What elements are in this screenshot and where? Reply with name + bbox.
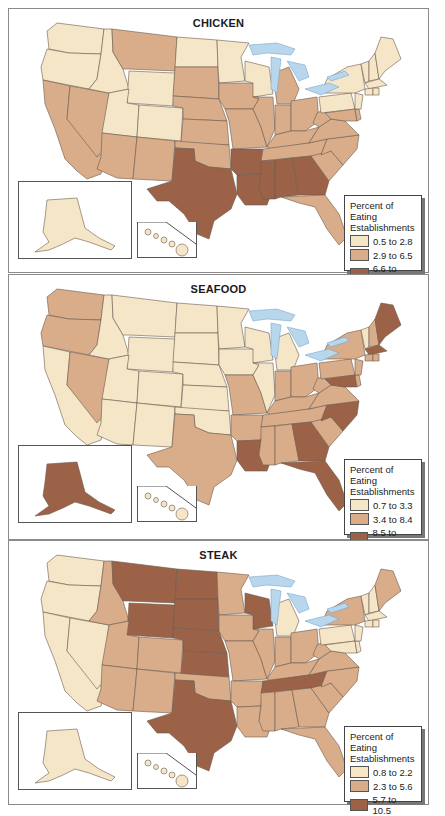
state-mt [112,295,177,337]
state-hi [154,498,159,503]
legend-label: 0.8 to 2.2 [373,767,413,778]
state-mt [112,29,177,71]
state-sd [173,333,219,365]
state-nm [133,137,175,181]
hawaii-inset [137,222,197,258]
swatch-low [350,235,369,247]
state-nm [133,403,175,447]
legend-label: 0.5 to 2.8 [373,236,413,247]
swatch-mid [350,249,369,261]
state-hi [145,760,151,766]
legend: Percent of Eating Establishments 0.8 to … [344,726,422,802]
state-hi [154,234,159,239]
state-ks [181,651,229,677]
legend-item-mid: 3.4 to 8.4 [350,513,416,525]
state-nd [175,37,218,67]
legend-item-low: 0.7 to 3.3 [350,499,416,511]
legend-title-2: Establishments [350,486,416,497]
state-hi [161,237,167,243]
state-ms [259,692,275,731]
state-nj [355,625,363,641]
state-nd [175,569,218,599]
state-ar [231,149,263,175]
state-az [97,665,137,711]
state-hi [154,765,159,770]
panel-title: STEAK [9,549,428,561]
state-wy [127,71,175,106]
legend-title: Percent of Eating [350,200,416,222]
legend: Percent of Eating Establishments 0.5 to … [344,195,422,271]
swatch-mid [350,513,369,525]
great-lake [249,43,295,55]
map-panel-seafood: SEAFOOD Percent of Eating Establishments… [8,274,429,540]
legend-label: 2.9 to 6.5 [373,250,413,261]
legend-item-mid: 2.3 to 5.6 [350,780,416,792]
state-me [375,37,401,79]
hawaii-inset [137,753,197,789]
state-oh [291,97,319,131]
state-hi [169,772,175,778]
state-ri [373,354,379,361]
state-in [275,371,291,401]
great-lake [249,575,295,587]
great-lake [249,309,295,321]
legend-item-low: 0.5 to 2.8 [350,235,416,247]
legend-title: Percent of Eating [350,731,416,753]
state-in [275,637,291,667]
panel-title: SEAFOOD [9,283,428,295]
state-ak [35,729,115,783]
state-hi [176,775,188,787]
legend-title-2: Establishments [350,222,416,233]
legend-title-2: Establishments [350,753,416,764]
legend-item-high: 5.7 to 10.5 [350,794,416,816]
state-mn [217,40,249,83]
state-ak [35,198,115,252]
legend-label: 0.7 to 3.3 [373,500,413,511]
swatch-low [350,766,369,778]
state-hi [161,501,167,507]
map-panel-chicken: CHICKEN Percent of Eating Establishments… [8,8,429,273]
legend-title: Percent of Eating [350,464,416,486]
alaska-inset [18,181,132,259]
state-fl [281,727,347,777]
legend-label: 2.3 to 5.6 [373,781,413,792]
state-mn [217,572,249,615]
hawaii-inset [137,486,197,522]
legend-label: 5.7 to 10.5 [372,794,416,816]
map-panel-steak: STEAK Percent of Eating Establishments 0… [8,540,429,805]
panel-title: CHICKEN [9,17,428,29]
state-sd [173,67,219,99]
swatch-low [350,499,369,511]
state-hi [145,493,151,499]
state-me [375,569,401,611]
state-ks [181,119,229,145]
legend: Percent of Eating Establishments 0.7 to … [344,459,422,535]
state-co [137,637,183,673]
state-ks [181,385,229,411]
alaska-inset [18,445,132,523]
state-az [97,399,137,445]
state-ct [365,354,373,361]
state-nm [133,669,175,713]
state-oh [291,363,319,397]
swatch-high [350,799,368,811]
state-fl [281,461,347,511]
state-fl [281,195,347,245]
state-mt [112,561,177,603]
state-nj [355,359,363,375]
legend-item-low: 0.8 to 2.2 [350,766,416,778]
state-nd [175,303,218,333]
state-ri [373,88,379,95]
state-wy [127,337,175,372]
state-hi [169,241,175,247]
state-ms [259,426,275,465]
state-me [375,303,401,345]
state-ct [365,88,373,95]
state-co [137,371,183,407]
state-hi [145,229,151,235]
state-hi [176,244,188,256]
state-ak [35,462,115,516]
state-hi [169,505,175,511]
state-ar [231,415,263,441]
state-sd [173,599,219,631]
